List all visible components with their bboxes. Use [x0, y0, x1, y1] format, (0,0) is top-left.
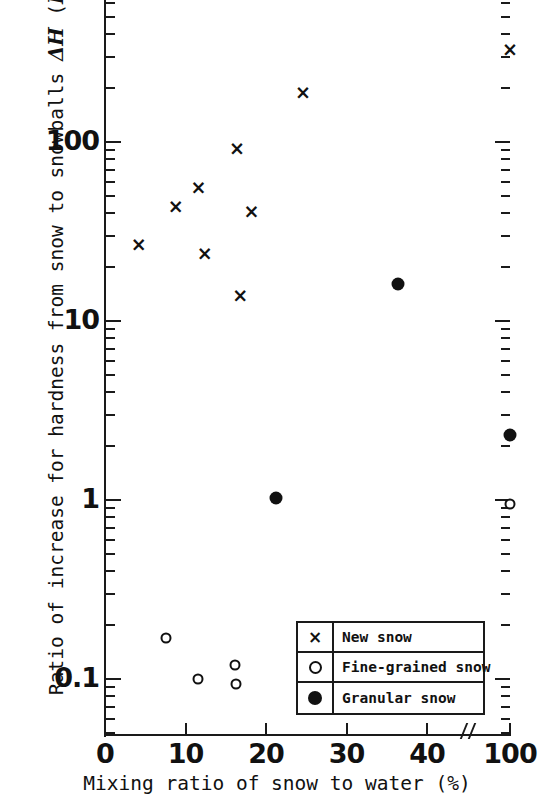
- y-axis-minor-tick: [501, 570, 510, 572]
- y-axis-minor-tick: [106, 266, 115, 268]
- y-axis-minor-tick: [106, 169, 115, 171]
- filled-circle-marker-icon: [308, 691, 322, 705]
- y-axis-major-tick: [106, 499, 121, 501]
- y-axis-minor-tick: [106, 2, 115, 4]
- chart-canvas: 0.1110100 010203040100 ××××××××× Ratio o…: [0, 0, 554, 807]
- data-point-cross-marker: ×: [229, 139, 245, 158]
- y-axis-minor-tick: [501, 360, 510, 362]
- y-axis-title-text: Ratio of increase for hardness from snow…: [45, 61, 68, 695]
- y-axis-minor-tick: [501, 266, 510, 268]
- y-axis-minor-tick: [106, 414, 115, 416]
- y-axis-minor-tick: [106, 212, 115, 214]
- x-axis-tick-label: 40: [382, 740, 472, 767]
- y-axis-minor-tick: [501, 695, 510, 697]
- y-axis-minor-tick: [106, 732, 115, 734]
- y-axis-minor-tick: [501, 374, 510, 376]
- y-axis-minor-tick: [501, 516, 510, 518]
- cross-marker-icon: ×: [308, 629, 322, 646]
- data-point-cross-marker: ×: [131, 234, 147, 253]
- x-axis-line: [104, 734, 511, 736]
- data-point-cross-marker: ×: [232, 285, 248, 304]
- x-axis-tick-label: 30: [302, 740, 392, 767]
- y-axis-minor-tick: [106, 507, 115, 509]
- x-axis-tick-label: 10: [141, 740, 231, 767]
- y-axis-minor-tick: [501, 414, 510, 416]
- legend-box: × New snow Fine-grained snow Granular sn…: [296, 621, 485, 715]
- y-axis-minor-tick: [501, 328, 510, 330]
- y-axis-minor-tick: [501, 624, 510, 626]
- legend-label-new-snow: New snow: [334, 629, 412, 645]
- legend-symbol-cell: [298, 653, 334, 681]
- y-axis-minor-tick: [106, 16, 115, 18]
- legend-symbol-cell: ×: [298, 623, 334, 651]
- y-axis-minor-tick: [106, 33, 115, 35]
- x-axis-tick-label: 20: [221, 740, 311, 767]
- y-axis-minor-tick: [501, 391, 510, 393]
- y-axis-minor-tick: [501, 16, 510, 18]
- y-axis-minor-tick: [501, 169, 510, 171]
- legend-row-granular-snow[interactable]: Granular snow: [298, 683, 483, 713]
- x-axis-major-tick: [509, 723, 511, 735]
- data-point-cross-marker: ×: [168, 196, 184, 215]
- y-axis-minor-tick: [106, 374, 115, 376]
- x-axis-major-tick: [265, 723, 267, 735]
- x-axis-major-tick: [104, 723, 106, 735]
- y-axis-minor-tick: [106, 516, 115, 518]
- y-axis-minor-tick: [106, 539, 115, 541]
- y-axis-minor-tick: [106, 360, 115, 362]
- y-axis-minor-tick: [106, 348, 115, 350]
- y-axis-minor-tick: [501, 195, 510, 197]
- data-point-filled-circle-marker: [270, 491, 283, 504]
- y-axis-minor-tick: [106, 445, 115, 447]
- data-point-open-circle-marker: [230, 659, 241, 670]
- legend-row-new-snow[interactable]: × New snow: [298, 623, 483, 653]
- data-point-open-circle-marker: [161, 632, 172, 643]
- x-axis-title: Mixing ratio of snow to water (%): [0, 772, 554, 795]
- legend-row-fine-grained-snow[interactable]: Fine-grained snow: [298, 653, 483, 683]
- y-axis-minor-tick: [501, 348, 510, 350]
- y-axis-minor-tick: [501, 527, 510, 529]
- data-point-cross-marker: ×: [244, 202, 260, 221]
- y-axis-minor-tick: [106, 624, 115, 626]
- data-point-open-circle-marker: [505, 498, 516, 509]
- y-axis-minor-tick: [106, 195, 115, 197]
- y-axis-minor-tick: [106, 181, 115, 183]
- y-axis-minor-tick: [501, 158, 510, 160]
- x-axis-break-icon: [459, 723, 479, 739]
- data-point-filled-circle-marker: [392, 278, 405, 291]
- y-axis-minor-tick: [106, 235, 115, 237]
- y-axis-tick-label: 1: [81, 485, 99, 512]
- y-axis-minor-tick: [106, 328, 115, 330]
- y-axis-minor-tick: [106, 553, 115, 555]
- y-axis-minor-tick: [106, 593, 115, 595]
- y-axis-minor-tick: [106, 570, 115, 572]
- y-axis-minor-tick: [106, 686, 115, 688]
- y-axis-minor-tick: [501, 149, 510, 151]
- legend-label-fine-grained-snow: Fine-grained snow: [334, 659, 490, 675]
- x-axis-tick-label: 0: [60, 740, 150, 767]
- data-point-open-circle-marker: [193, 674, 204, 685]
- legend-label-granular-snow: Granular snow: [334, 690, 456, 706]
- data-point-cross-marker: ×: [502, 40, 518, 59]
- y-axis-minor-tick: [106, 718, 115, 720]
- y-axis-minor-tick: [106, 87, 115, 89]
- y-axis-minor-tick: [501, 2, 510, 4]
- y-axis-minor-tick: [106, 337, 115, 339]
- y-axis-title-hb: H: [45, 0, 68, 4]
- y-axis-minor-tick: [106, 527, 115, 529]
- legend-symbol-cell: [298, 683, 334, 713]
- y-axis-minor-tick: [501, 706, 510, 708]
- data-point-open-circle-marker: [231, 678, 242, 689]
- y-axis-minor-tick: [106, 706, 115, 708]
- y-axis-minor-tick: [106, 391, 115, 393]
- y-axis-minor-tick: [501, 539, 510, 541]
- y-axis-minor-tick: [501, 33, 510, 35]
- x-axis-tick-label: 100: [465, 740, 554, 767]
- x-axis-major-tick: [185, 723, 187, 735]
- open-circle-marker-icon: [309, 661, 322, 674]
- data-point-cross-marker: ×: [197, 243, 213, 262]
- y-axis-title-symbol: ΔH: [45, 27, 68, 61]
- y-axis-major-tick: [106, 141, 121, 143]
- y-axis-minor-tick: [106, 56, 115, 58]
- y-axis-minor-tick: [501, 593, 510, 595]
